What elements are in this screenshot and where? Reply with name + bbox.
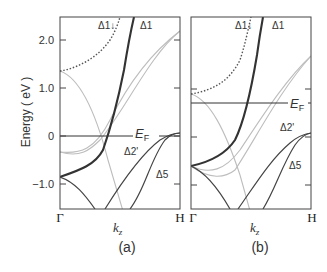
label-delta5: Δ5	[289, 160, 302, 171]
label-delta1-down: Δ1↓	[235, 20, 252, 31]
h-label: H	[307, 210, 316, 225]
panel-a: Δ1↓ Δ1 Δ2' Δ5 EF Γ H kz (a)	[56, 17, 184, 255]
label-delta1: Δ1	[272, 20, 285, 31]
gray-band	[191, 94, 252, 218]
label-delta2-prime: Δ2'	[280, 122, 294, 133]
dark-band	[60, 177, 95, 209]
gray-band	[191, 56, 311, 170]
band-delta2-prime	[105, 133, 180, 209]
kz-label: kz	[113, 220, 123, 237]
panel-label-b: (b)	[251, 239, 268, 255]
dark-band	[191, 166, 230, 209]
y-axis-title: Energy ( eV )	[19, 77, 33, 148]
band-delta2-prime	[238, 133, 311, 209]
panel-label-a: (a)	[118, 239, 135, 255]
label-delta2-prime: Δ2'	[124, 146, 138, 157]
gamma-label: Γ	[189, 210, 197, 225]
y-tick-label: 1.0	[39, 82, 54, 94]
y-tick-label: −1.0	[32, 178, 54, 190]
label-delta1: Δ1	[140, 20, 153, 31]
band-structure-figure: Energy ( eV ) 2.0 1.0 0 −1.0	[0, 0, 327, 272]
kz-label: kz	[250, 220, 260, 237]
label-delta5: Δ5	[156, 169, 169, 180]
h-label: H	[175, 210, 184, 225]
y-tick-label: 0	[48, 130, 54, 142]
label-delta1-down: Δ1↓	[98, 20, 115, 31]
band-delta5	[263, 133, 311, 209]
gamma-label: Γ	[56, 210, 64, 225]
y-tick-label: 2.0	[39, 34, 54, 46]
gray-band	[191, 56, 311, 176]
panel-b: Δ1↓ Δ1 Δ2' Δ5 EF Γ H kz (b)	[189, 17, 316, 255]
